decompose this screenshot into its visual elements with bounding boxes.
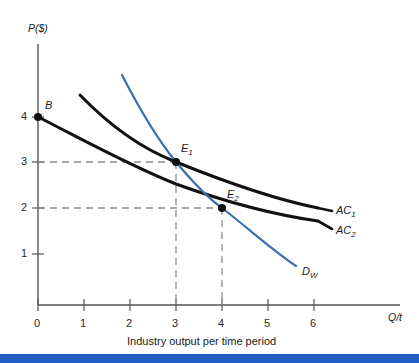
point-e2-label: E2 bbox=[227, 189, 239, 203]
curve-dw-label-sub: W bbox=[310, 271, 318, 280]
figure-canvas: P($) Q/t 4 3 2 1 0 1 2 3 4 5 6 B E1 E2 A… bbox=[0, 0, 419, 363]
point-e1-marker bbox=[172, 158, 180, 166]
x-tick-label-4: 4 bbox=[218, 318, 224, 329]
point-b-marker bbox=[34, 113, 42, 121]
x-axis-title: Q/t bbox=[388, 312, 402, 323]
curve-ac1-label: AC1 bbox=[336, 205, 356, 219]
point-e2-label-sub: 2 bbox=[234, 194, 238, 203]
x-tick-label-5: 5 bbox=[264, 318, 270, 329]
curve-ac2-leader bbox=[318, 221, 332, 229]
chart-plot-area bbox=[0, 0, 419, 363]
y-tick-label-2: 2 bbox=[21, 202, 27, 213]
point-b-label: B bbox=[45, 100, 52, 111]
curve-ac2-label: AC2 bbox=[336, 225, 356, 239]
bottom-accent-bar bbox=[0, 354, 419, 363]
y-tick-label-4: 4 bbox=[21, 111, 27, 122]
curve-ac2-label-text: AC bbox=[336, 224, 351, 236]
x-tick-label-0: 0 bbox=[34, 318, 40, 329]
curve-ac1-label-sub: 1 bbox=[351, 210, 355, 219]
curve-dw-label: DW bbox=[302, 266, 318, 280]
y-tick-label-3: 3 bbox=[21, 156, 27, 167]
curve-dw-label-text: D bbox=[302, 265, 310, 277]
curve-ac1-leader bbox=[318, 208, 332, 211]
y-axis-title: P($) bbox=[28, 23, 48, 34]
x-axis-caption: Industry output per time period bbox=[127, 336, 276, 347]
x-tick-label-1: 1 bbox=[80, 318, 86, 329]
y-tick-label-1: 1 bbox=[21, 248, 27, 259]
x-tick-label-6: 6 bbox=[310, 318, 316, 329]
x-tick-label-2: 2 bbox=[126, 318, 132, 329]
curve-ac2-label-sub: 2 bbox=[351, 230, 355, 239]
point-e1-label: E1 bbox=[181, 143, 193, 157]
point-e1-label-sub: 1 bbox=[188, 148, 192, 157]
curve-ac1-label-text: AC bbox=[336, 204, 351, 216]
curve-ac2 bbox=[38, 117, 318, 221]
point-e2-marker bbox=[218, 204, 226, 212]
x-tick-label-3: 3 bbox=[172, 318, 178, 329]
